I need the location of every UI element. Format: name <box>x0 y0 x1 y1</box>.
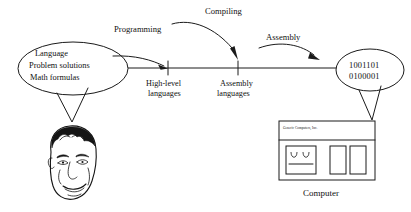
tick-label-assembly: Assembly languages <box>217 79 254 98</box>
computer-drive-bay-2 <box>350 146 366 174</box>
chin-crease <box>68 194 81 196</box>
cheek-right <box>88 168 90 185</box>
diagram-svg: Language Problem solutions Math formulas… <box>0 0 411 212</box>
computer-screen <box>286 146 316 174</box>
hair-strand-1 <box>60 136 70 140</box>
arc-compiling-label: Compiling <box>205 6 242 16</box>
tick-label-assembly-line-1: Assembly <box>220 79 254 88</box>
arc-compiling-path <box>172 22 232 48</box>
arc-assembly-path <box>259 44 314 55</box>
human-language-line-3: Math formulas <box>30 73 80 82</box>
programmer-face <box>48 126 96 199</box>
human-language-line-1: Language <box>35 49 68 58</box>
diagram-canvas: Language Problem solutions Math formulas… <box>0 0 411 212</box>
pupil-left <box>62 162 64 164</box>
computer-caption: Computer <box>303 188 339 198</box>
tick-label-high-level-line-2: languages <box>148 89 181 98</box>
machine-code-ellipse: 1001101 0100001 <box>336 49 404 91</box>
arc-assembly: Assembly <box>259 32 320 60</box>
machine-code-ellipse-outline <box>336 49 404 91</box>
pupil-right <box>81 161 83 163</box>
eyebrow-left <box>57 155 69 158</box>
computer-drive-bay-1 <box>330 146 346 174</box>
arc-programming-label: Programming <box>114 24 162 34</box>
machine-code-line-1: 1001101 <box>349 61 379 70</box>
cheek-left <box>59 170 61 184</box>
arc-compiling-arrowhead <box>230 46 238 60</box>
human-language-line-2: Problem solutions <box>29 61 90 70</box>
tick-label-high-level: High-level languages <box>146 79 182 98</box>
nose <box>68 162 77 179</box>
arc-compiling: Compiling <box>172 6 242 60</box>
computer-case: Generic Computers, Inc. Computer <box>279 121 375 198</box>
ear-left <box>48 158 54 169</box>
arc-assembly-arrowhead <box>308 53 320 61</box>
machine-code-line-2: 0100001 <box>349 72 380 81</box>
arc-assembly-label: Assembly <box>266 32 301 42</box>
tick-label-high-level-line-1: High-level <box>146 79 182 88</box>
tick-label-assembly-line-2: languages <box>217 89 250 98</box>
eyebrow-right <box>76 154 89 157</box>
spectrum-axis <box>112 61 348 75</box>
human-language-ellipse: Language Problem solutions Math formulas <box>18 42 128 95</box>
mouth <box>63 184 86 189</box>
